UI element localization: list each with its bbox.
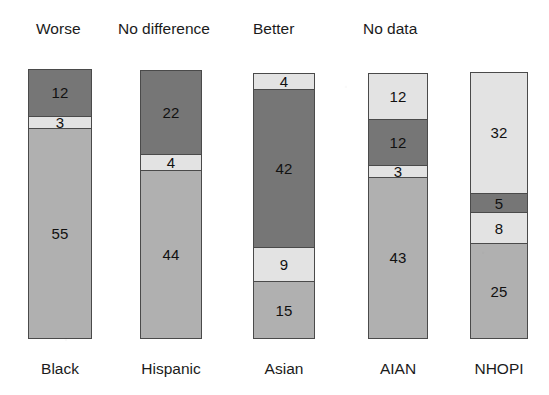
bar-segment: 9	[254, 248, 314, 283]
bar-segment: 3	[369, 166, 427, 178]
bar-segment: 12	[369, 120, 427, 166]
bar-segment: 15	[254, 282, 314, 338]
segment-value-label: 12	[390, 89, 407, 104]
bar-hispanic: 22444	[140, 70, 202, 339]
bar-segment: 5	[471, 194, 527, 214]
segment-value-label: 42	[276, 161, 293, 176]
segment-value-label: 25	[491, 284, 508, 299]
bar-black: 12355	[28, 69, 92, 339]
bar-segment: 4	[141, 155, 201, 171]
bar-segment: 12	[369, 74, 427, 120]
bar-segment: 55	[29, 129, 91, 338]
bar-aian: 1212343	[368, 73, 428, 339]
bar-segment: 43	[369, 178, 427, 338]
bar-segment: 44	[141, 171, 201, 338]
category-label-nhopi: NHOPI	[456, 359, 542, 379]
bar-segment: 8	[471, 213, 527, 244]
segment-value-label: 12	[390, 135, 407, 150]
segment-value-label: 44	[163, 247, 180, 262]
bar-segment: 4	[254, 74, 314, 90]
segment-value-label: 8	[495, 221, 503, 236]
bar-segment: 42	[254, 90, 314, 248]
bar-segment: 12	[29, 70, 91, 117]
segment-value-label: 9	[280, 257, 288, 272]
segment-value-label: 32	[491, 125, 508, 140]
stacked-bar-chart: Worse No difference Better No data 12355…	[0, 0, 549, 395]
segment-value-label: 22	[163, 105, 180, 120]
segment-value-label: 12	[52, 85, 69, 100]
segment-value-label: 55	[52, 226, 69, 241]
segment-value-label: 43	[390, 250, 407, 265]
segment-value-label: 3	[394, 166, 402, 178]
category-label-asian: Asian	[239, 359, 329, 379]
bar-segment: 25	[471, 244, 527, 338]
segment-value-label: 3	[56, 117, 64, 129]
segment-value-label: 4	[280, 74, 288, 89]
bar-segment: 32	[471, 73, 527, 194]
segment-value-label: 4	[167, 155, 175, 170]
segment-value-label: 5	[495, 196, 503, 211]
bar-nhopi: 325825	[470, 72, 528, 339]
bar-segment: 22	[141, 71, 201, 155]
category-label-black: Black	[14, 359, 106, 379]
segment-value-label: 15	[276, 303, 293, 318]
bar-segment: 3	[29, 117, 91, 129]
plot-area: 12355Black22444Hispanic442915Asian121234…	[0, 0, 549, 395]
bar-asian: 442915	[253, 73, 315, 339]
category-label-aian: AIAN	[354, 359, 442, 379]
category-label-hispanic: Hispanic	[126, 359, 216, 379]
